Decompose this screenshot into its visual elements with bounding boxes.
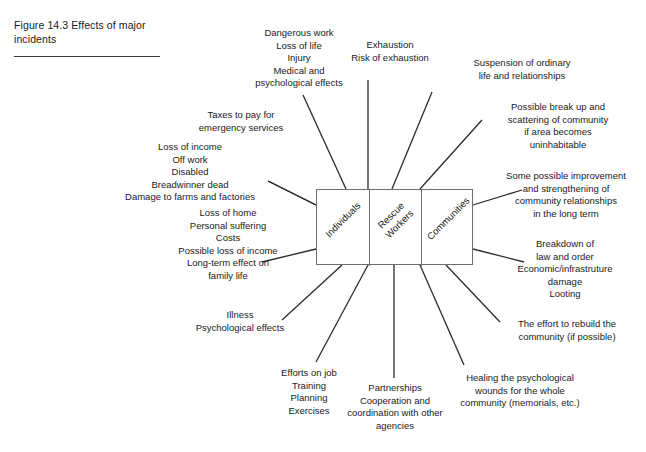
note-loss-of-home: Loss of home Personal suffering Costs Po… — [148, 207, 308, 283]
connector-dangerous-work — [303, 95, 346, 189]
core-cell-individuals: Individuals — [321, 197, 366, 242]
note-taxes: Taxes to pay for emergency services — [176, 109, 306, 134]
note-loss-of-income: Loss of income Off work Disabled Breadwi… — [110, 141, 270, 204]
note-exhaustion: Exhaustion Risk of exhaustion — [330, 39, 450, 64]
note-effort-to-rebuild: The effort to rebuild the community (if … — [492, 318, 642, 343]
connector-loss-of-income — [268, 181, 316, 205]
core-box: Individuals Rescue Workers Communities — [316, 189, 473, 265]
note-healing-psychological-wounds: Healing the psychological wounds for the… — [436, 372, 604, 410]
core-cell-communities: Communities — [425, 197, 470, 242]
note-suspension-of-ordinary-life: Suspension of ordinary life and relation… — [442, 57, 602, 82]
core-cell-rescue-workers: Rescue Workers — [368, 193, 421, 246]
connector-suspension — [392, 92, 432, 189]
note-some-possible-improvement: Some possible improvement and strengthen… — [486, 170, 646, 220]
note-possible-break-up: Possible break up and scattering of comm… — [478, 101, 638, 151]
figure-canvas: Figure 14.3 Effects of major incidents — [0, 0, 646, 452]
connector-healing — [420, 265, 464, 365]
note-illness: Illness Psychological effects — [170, 309, 310, 334]
connector-efforts-on-job — [316, 265, 368, 362]
connector-break-up — [420, 120, 482, 189]
core-divider-2 — [421, 190, 422, 266]
note-breakdown-of-law-and-order: Breakdown of law and order Economic/infr… — [492, 238, 638, 301]
